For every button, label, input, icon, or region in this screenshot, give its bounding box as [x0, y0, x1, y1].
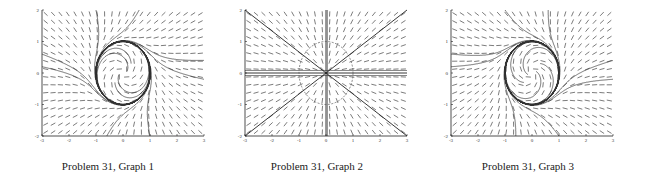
- y-tick-label: -1: [35, 102, 40, 107]
- x-tick-label: -1: [94, 138, 99, 143]
- y-tick-label: 2: [37, 8, 40, 13]
- y-tick-label: -1: [444, 102, 449, 107]
- y-tick-label: -1: [238, 102, 243, 107]
- graph-2-direction-field: -3-2-10123210-1-2: [209, 0, 425, 160]
- y-tick-label: -2: [238, 134, 243, 139]
- x-tick-label: 2: [585, 138, 588, 143]
- x-tick-label: -3: [449, 138, 454, 143]
- x-tick-label: 3: [406, 138, 409, 143]
- y-tick-label: 1: [240, 39, 243, 44]
- x-tick-label: -3: [243, 138, 248, 143]
- plot-area: -3-2-10123210-1-2: [238, 8, 409, 143]
- plot-area: -3-2-10123210-1-2: [35, 8, 206, 143]
- x-tick-label: 0: [122, 138, 125, 143]
- y-tick-label: 0: [240, 71, 243, 76]
- graph-1-direction-field: -3-2-10123210-1-2: [0, 0, 216, 160]
- y-tick-label: -2: [444, 134, 449, 139]
- x-tick-label: -1: [503, 138, 508, 143]
- graph-3-direction-field: -3-2-10123210-1-2: [420, 0, 636, 160]
- graph-1-caption: Problem 31, Graph 1: [0, 160, 216, 172]
- graph-2-caption: Problem 31, Graph 2: [209, 160, 425, 172]
- x-tick-label: 3: [203, 138, 206, 143]
- y-tick-label: 1: [446, 39, 449, 44]
- x-tick-label: -3: [40, 138, 45, 143]
- y-tick-label: -2: [35, 134, 40, 139]
- x-tick-label: -2: [67, 138, 72, 143]
- graph-3-panel: -3-2-10123210-1-2 Problem 31, Graph 3: [420, 0, 636, 187]
- graph-2-panel: -3-2-10123210-1-2 Problem 31, Graph 2: [209, 0, 425, 187]
- y-tick-label: 0: [37, 71, 40, 76]
- x-tick-label: -2: [270, 138, 275, 143]
- plot-area: -3-2-10123210-1-2: [444, 8, 615, 143]
- graph-1-panel: -3-2-10123210-1-2 Problem 31, Graph 1: [0, 0, 216, 187]
- x-tick-label: -2: [476, 138, 481, 143]
- graph-3-caption: Problem 31, Graph 3: [420, 160, 636, 172]
- y-tick-label: 0: [446, 71, 449, 76]
- x-tick-label: 1: [352, 138, 355, 143]
- y-tick-label: 2: [446, 8, 449, 13]
- x-tick-label: 2: [379, 138, 382, 143]
- x-tick-label: 0: [531, 138, 534, 143]
- x-tick-label: 2: [176, 138, 179, 143]
- y-tick-label: 2: [240, 8, 243, 13]
- x-tick-label: -1: [297, 138, 302, 143]
- x-tick-label: 0: [325, 138, 328, 143]
- x-tick-label: 3: [612, 138, 615, 143]
- x-tick-label: 1: [558, 138, 561, 143]
- y-tick-label: 1: [37, 39, 40, 44]
- x-tick-label: 1: [149, 138, 152, 143]
